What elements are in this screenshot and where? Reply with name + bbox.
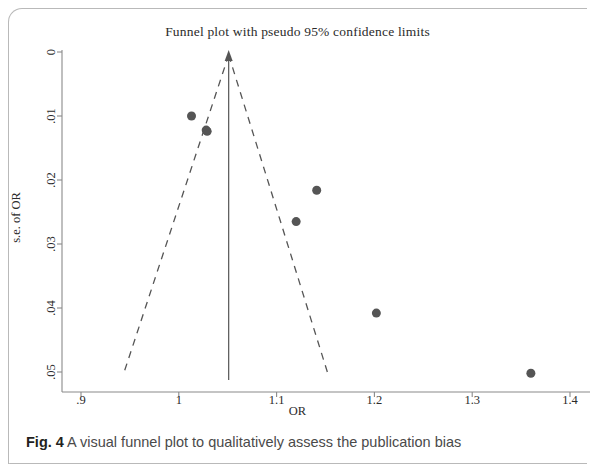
data-point xyxy=(526,369,535,378)
data-point xyxy=(312,186,321,195)
caption-label: Fig. 4 xyxy=(26,434,64,450)
y-tick-label: .02 xyxy=(44,165,58,195)
y-tick-label: .01 xyxy=(44,101,58,131)
y-tick-label: .03 xyxy=(44,229,58,259)
x-tick-label: 1.3 xyxy=(452,393,492,408)
data-point xyxy=(203,127,212,136)
x-tick-label: 1.2 xyxy=(354,393,394,408)
figure-caption: Fig. 4 A visual funnel plot to qualitati… xyxy=(26,432,582,452)
pooled-effect-arrowhead xyxy=(225,50,233,61)
ci-limit-line-left xyxy=(124,55,229,374)
figure-container: Funnel plot with pseudo 95% confidence l… xyxy=(0,0,595,472)
x-tick-label: 1.4 xyxy=(550,393,590,408)
y-tick-label: .04 xyxy=(44,293,58,323)
data-point xyxy=(187,112,196,121)
y-tick-label: .05 xyxy=(44,357,58,387)
plot-canvas xyxy=(0,0,595,425)
y-axis-title: s.e. of OR xyxy=(9,158,24,278)
ci-limit-line-right xyxy=(229,55,328,374)
x-tick-label: .9 xyxy=(61,393,101,408)
data-point xyxy=(372,309,381,318)
caption-divider xyxy=(8,424,9,464)
x-tick-label: 1 xyxy=(159,393,199,408)
funnel-plot: Funnel plot with pseudo 95% confidence l… xyxy=(0,0,595,425)
caption-text: A visual funnel plot to qualitatively as… xyxy=(64,434,461,450)
y-tick-label: 0 xyxy=(44,37,58,67)
x-tick-label: 1.1 xyxy=(257,393,297,408)
data-point xyxy=(292,217,301,226)
